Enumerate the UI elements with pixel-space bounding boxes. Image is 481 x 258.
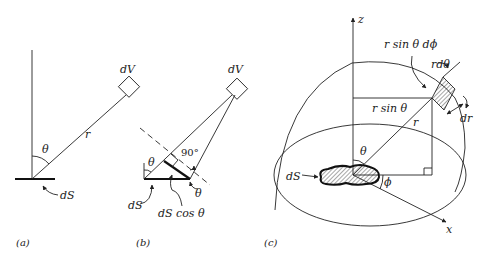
caption-a: (a) <box>16 237 30 248</box>
label-ds: dS <box>60 189 75 202</box>
radius-line <box>32 95 126 179</box>
caption-b: (b) <box>136 237 150 248</box>
panel-c: z x r sin θ dϕ rdθ dr r sin θ r θ ϕ dS (… <box>264 13 473 248</box>
label-ds: dS <box>286 170 301 183</box>
ray-left <box>144 95 232 179</box>
hemisphere-outline <box>275 62 465 210</box>
ds-pointer <box>302 175 318 177</box>
label-dv: dV <box>120 63 136 76</box>
label-rdtheta: rdθ <box>431 58 450 71</box>
theta-arc-top <box>144 170 151 172</box>
label-r-sin-theta-dphi: r sin θ dϕ <box>384 38 438 51</box>
label-90-degrees: 90° <box>181 147 199 158</box>
label-x: x <box>446 223 453 236</box>
surface-element-ds <box>320 165 379 185</box>
r-sin-theta-dphi-arrow <box>411 56 426 88</box>
label-r: r <box>413 116 419 129</box>
caption-c: (c) <box>264 237 278 248</box>
ds-arrow <box>43 186 58 195</box>
dr-curve-arrow <box>463 96 467 108</box>
label-dr: dr <box>460 112 473 125</box>
label-r-sin-theta: r sin θ <box>372 102 407 115</box>
panel-b: dV 90° θ θ dS dS cos θ (b) <box>128 63 248 248</box>
projected-area-line <box>164 161 190 179</box>
label-r: r <box>85 128 91 141</box>
label-theta: θ <box>360 145 367 158</box>
volume-element-dv <box>118 76 139 97</box>
volume-element-dv <box>226 78 247 99</box>
panel-a: dV r θ dS (a) <box>15 50 140 248</box>
theta-arc <box>32 156 49 164</box>
label-theta-top: θ <box>148 156 155 169</box>
label-ds: dS <box>128 199 143 212</box>
radiation-geometry-figure: dV r θ dS (a) dV 90° θ θ dS dS cos θ (b) <box>0 0 481 258</box>
phi-arc <box>380 175 383 189</box>
volume-element <box>432 77 455 110</box>
label-phi: ϕ <box>384 176 392 189</box>
ray-right <box>190 95 235 179</box>
theta-arc <box>353 160 364 164</box>
label-dv: dV <box>228 63 244 76</box>
label-z: z <box>357 13 364 26</box>
label-ds-cos-theta: dS cos θ <box>158 207 205 220</box>
right-angle-mark <box>424 168 432 175</box>
label-theta: θ <box>42 143 49 156</box>
label-theta-bottom: θ <box>195 187 202 200</box>
